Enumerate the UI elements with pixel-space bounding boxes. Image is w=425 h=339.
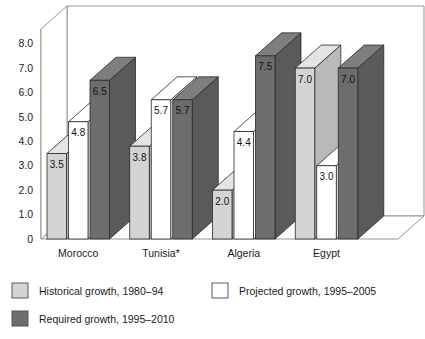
y-tick-label: 8.0 xyxy=(18,37,33,49)
bar-front-face xyxy=(338,68,358,239)
bar-front-face xyxy=(173,100,193,239)
bar-value-label: 5.7 xyxy=(176,105,190,116)
legend-label: Historical growth, 1980–94 xyxy=(39,285,163,297)
bar-front-face xyxy=(295,68,315,239)
x-category-label: Morocco xyxy=(58,247,98,259)
y-tick-label: 4.0 xyxy=(18,135,33,147)
legend-label: Projected growth, 1995–2005 xyxy=(239,285,376,297)
bar-front-face xyxy=(256,56,276,239)
legend-label: Required growth, 1995–2010 xyxy=(39,313,175,325)
y-tick-label: 3.0 xyxy=(18,159,33,171)
legend-swatch xyxy=(12,283,28,298)
bar-value-label: 7.0 xyxy=(298,74,312,85)
y-tick-label: 7.0 xyxy=(18,62,33,74)
bar-value-label: 4.4 xyxy=(237,137,251,148)
bar-value-label: 3.8 xyxy=(133,152,147,163)
y-tick-label: 2.0 xyxy=(18,184,33,196)
x-category-label: Tunisia* xyxy=(142,247,180,259)
bar-value-label: 6.5 xyxy=(93,86,107,97)
legend-swatch xyxy=(12,311,28,326)
y-tick-label: 0 xyxy=(27,233,33,245)
y-tick-label: 1.0 xyxy=(18,208,33,220)
bar-value-label: 5.7 xyxy=(154,105,168,116)
bar-front-face xyxy=(151,100,171,239)
bar-side-face xyxy=(358,45,384,239)
bar-value-label: 2.0 xyxy=(215,196,229,207)
bar-value-label: 3.0 xyxy=(320,171,334,182)
x-category-label: Egypt xyxy=(313,247,340,259)
bar-value-label: 7.5 xyxy=(258,61,272,72)
bar-chart-figure: 01.02.03.04.05.06.07.08.0 MoroccoTunisia… xyxy=(0,0,425,339)
chart-canvas: 01.02.03.04.05.06.07.08.0 MoroccoTunisia… xyxy=(0,0,425,339)
x-category-label: Algeria xyxy=(227,247,260,259)
bar-value-label: 3.5 xyxy=(50,159,64,170)
y-axis-tick-labels: 01.02.03.04.05.06.07.08.0 xyxy=(18,37,33,244)
y-tick-label: 6.0 xyxy=(18,86,33,98)
legend-swatch xyxy=(212,283,228,298)
bar-front-face xyxy=(69,122,89,239)
bar-value-label: 7.0 xyxy=(341,74,355,85)
y-tick-label: 5.0 xyxy=(18,111,33,123)
bar-front-face xyxy=(90,80,110,239)
legend: Historical growth, 1980–94Projected grow… xyxy=(12,283,376,326)
x-axis-category-labels: MoroccoTunisia*AlgeriaEgypt xyxy=(58,247,340,259)
bar-value-label: 4.8 xyxy=(71,127,85,138)
